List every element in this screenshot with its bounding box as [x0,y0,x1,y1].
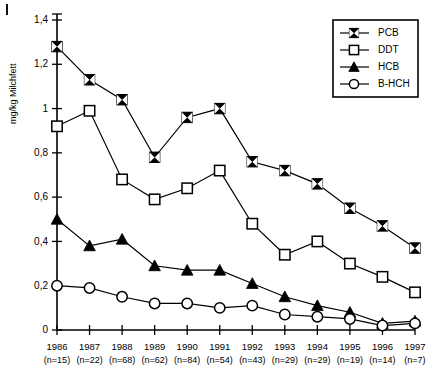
marker-open-circle [247,300,257,310]
y-tick-label: 1,2 [34,58,48,69]
marker-filled-triangle [51,213,63,224]
marker-open-square [117,174,127,184]
x-tick-sample-size: (n=43) [239,355,265,365]
marker-open-circle [52,281,62,291]
x-tick-label: 1988 [112,341,133,352]
y-tick-label: 1,4 [34,14,48,25]
x-tick-label: 1986 [46,341,67,352]
x-tick-label: 1989 [144,341,165,352]
marker-open-square [345,258,355,268]
series-line-ddt [57,111,415,293]
marker-filled-triangle [116,233,128,244]
marker-open-circle [182,298,192,308]
marker-open-circle [215,303,225,313]
series-b-hch [52,281,420,331]
marker-open-circle [312,312,322,322]
legend-label: DDT [378,44,399,55]
x-tick-label: 1991 [209,341,230,352]
x-tick-sample-size: (n=22) [76,355,102,365]
x-tick-sample-size: (n=7) [404,355,425,365]
x-tick-label: 1997 [404,341,425,352]
marker-open-circle [410,318,420,328]
marker-open-square [349,45,358,54]
x-tick-label: 1987 [79,341,100,352]
chart-figure: mg/kg Milchfett 00,20,40,60,811,21,41986… [0,0,435,372]
y-tick-label: 1 [42,103,48,114]
legend: PCBDDTHCBB-HCH [333,20,418,97]
x-tick-label: 1993 [274,341,295,352]
marker-open-circle [117,292,127,302]
marker-open-square [182,183,192,193]
marker-open-circle [345,314,355,324]
x-tick-sample-size: (n=29) [304,355,330,365]
x-tick-sample-size: (n=68) [109,355,135,365]
series-hcb [51,213,421,328]
marker-open-square [149,194,159,204]
marker-open-square [410,287,420,297]
marker-open-circle [377,320,387,330]
x-tick-label: 1994 [307,341,328,352]
marker-open-square [84,106,94,116]
marker-open-square [52,121,62,131]
legend-label: B-HCH [378,78,410,89]
y-tick-label: 0,8 [34,147,48,158]
chart-canvas: 00,20,40,60,811,21,41986(n=15)1987(n=22)… [0,0,435,372]
marker-open-circle [84,283,94,293]
y-tick-label: 0,4 [34,236,48,247]
marker-open-circle [280,309,290,319]
x-tick-sample-size: (n=54) [207,355,233,365]
x-tick-sample-size: (n=19) [337,355,363,365]
x-tick-sample-size: (n=29) [272,355,298,365]
series-line-hcb [57,219,415,323]
marker-open-square [377,272,387,282]
x-tick-label: 1995 [339,341,360,352]
legend-label: PCB [378,27,399,38]
legend-label: HCB [378,61,399,72]
y-tick-label: 0 [42,324,48,335]
marker-open-square [280,250,290,260]
marker-filled-triangle [312,300,324,311]
x-tick-label: 1990 [177,341,198,352]
marker-open-square [215,165,225,175]
x-tick-label: 1992 [242,341,263,352]
y-tick-label: 0,2 [34,280,48,291]
marker-filled-triangle [246,278,258,289]
series-line-b-hch [57,286,415,326]
marker-open-circle [149,298,159,308]
marker-filled-triangle [279,291,291,302]
x-tick-sample-size: (n=15) [44,355,70,365]
x-tick-sample-size: (n=14) [369,355,395,365]
x-tick-sample-size: (n=62) [141,355,167,365]
x-tick-sample-size: (n=84) [174,355,200,365]
marker-open-square [312,236,322,246]
marker-open-square [247,219,257,229]
marker-open-circle [349,79,358,88]
y-tick-label: 0,6 [34,191,48,202]
marker-filled-triangle [149,260,161,271]
x-tick-label: 1996 [372,341,393,352]
